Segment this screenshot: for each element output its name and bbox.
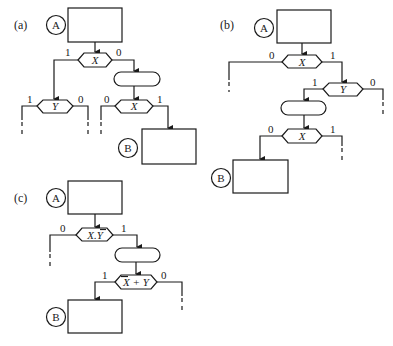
svg-text:B: B (52, 311, 59, 323)
svg-text:X: X (130, 100, 139, 112)
svg-text:B: B (217, 172, 224, 184)
svg-text:X.Y: X.Y (86, 229, 104, 241)
svg-text:X: X (298, 56, 307, 68)
branch-label: 0 (370, 76, 376, 88)
decision-hexagon-b1: X (282, 55, 322, 68)
svg-text:B: B (124, 142, 131, 154)
branch-label: 0 (269, 49, 275, 61)
svg-text:A: A (52, 192, 60, 204)
panel-a: (a) A X 1 0 Y 1 0 (14, 8, 196, 164)
panel-label-c: (c) (14, 191, 27, 205)
branch-label: 1 (27, 93, 33, 105)
decision-hexagon-b3: X (282, 129, 322, 143)
flowchart-diagram: (a) A X 1 0 Y 1 0 (0, 0, 393, 346)
branch-label: 0 (78, 93, 84, 105)
process-box-a-end (142, 129, 196, 164)
connector-b-end: B (212, 169, 231, 188)
branch-label: 1 (330, 123, 336, 135)
branch-label: 1 (157, 93, 163, 105)
terminal-pill-c (115, 248, 160, 262)
process-box-b-start (277, 10, 331, 43)
process-box-c-start (68, 181, 122, 214)
panel-b: (b) A X 0 1 Y 1 0 X (212, 10, 384, 193)
svg-text:X: X (298, 130, 307, 142)
branch-label: 1 (102, 269, 108, 281)
branch-label: 0 (104, 93, 110, 105)
svg-text:A: A (52, 19, 60, 31)
svg-text:X + Y: X + Y (122, 276, 151, 288)
process-box-c-end (68, 300, 122, 333)
panel-label-a: (a) (14, 18, 27, 32)
process-box-a-start (68, 8, 122, 42)
decision-hexagon-a2: Y (37, 100, 73, 113)
decision-hexagon-a3: X (115, 100, 153, 113)
connector-a-start: A (47, 16, 66, 35)
terminal-pill-b (281, 101, 326, 115)
connector-b-end: B (47, 308, 66, 327)
branch-label: 0 (116, 46, 122, 58)
decision-hexagon-c2: X + Y (115, 275, 157, 289)
panel-c: (c) A X.Y 0 1 X + Y 1 0 (14, 181, 182, 333)
svg-text:A: A (260, 22, 268, 34)
branch-label: 1 (65, 46, 71, 58)
svg-text:X: X (91, 54, 100, 66)
branch-label: 0 (161, 269, 167, 281)
terminal-pill-a (114, 72, 160, 86)
branch-label: 0 (268, 123, 274, 135)
connector-a-start: A (255, 19, 274, 38)
branch-label: 1 (330, 49, 336, 61)
panel-label-b: (b) (220, 18, 234, 32)
connector-a-start: A (47, 189, 66, 208)
branch-label: 1 (312, 76, 318, 88)
branch-label: 1 (121, 222, 127, 234)
branch-label: 0 (60, 222, 66, 234)
decision-hexagon-a1: X (78, 53, 112, 67)
process-box-b-end (233, 160, 288, 193)
connector-b-end: B (119, 139, 138, 158)
decision-hexagon-b2: Y (323, 83, 363, 96)
decision-hexagon-c1: X.Y (76, 228, 113, 241)
